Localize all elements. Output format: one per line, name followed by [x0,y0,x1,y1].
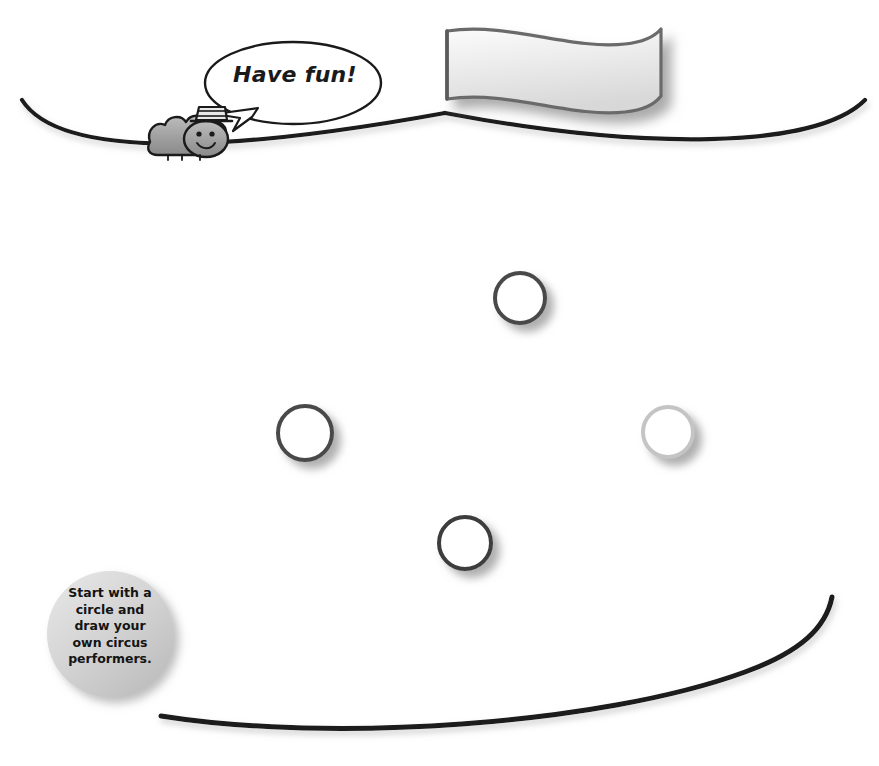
top-circle [495,273,545,323]
left-circle [278,406,332,460]
right-circle [643,407,693,457]
bottom-circle [439,517,491,569]
performer-circles [278,273,693,569]
blank-wavy-flag [447,29,661,113]
circus-worksheet-illustration [0,0,879,766]
top-hat-icon [191,107,232,121]
bottom-tightrope [161,597,832,728]
speech-bubble [205,42,381,131]
instruction-badge [47,571,173,697]
caterpillar-with-top-hat [148,107,232,160]
worksheet-canvas: Have fun! Start with a circle and draw y… [0,0,879,766]
